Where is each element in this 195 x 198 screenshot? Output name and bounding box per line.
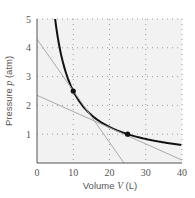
y-tick-label: 1 [26, 129, 31, 140]
y-tick-label: 3 [26, 71, 31, 82]
x-tick-labels: 010203040 [35, 167, 188, 178]
x-axis-label: Volume V (L) [83, 180, 137, 191]
y-tick-label: 4 [26, 42, 31, 53]
x-tick-label: 0 [35, 167, 40, 178]
data-point [71, 88, 76, 93]
x-tick-label: 40 [177, 167, 187, 178]
pv-chart: 010203040 12345 Volume V (L) Pressure p … [0, 0, 195, 198]
y-tick-label: 5 [26, 14, 31, 25]
y-tick-label: 2 [26, 100, 31, 111]
x-tick-label: 20 [105, 167, 115, 178]
y-tick-labels: 12345 [26, 14, 31, 140]
x-tick-label: 30 [141, 167, 151, 178]
x-tick-label: 10 [68, 167, 78, 178]
data-point [125, 132, 130, 137]
y-axis-label: Pressure p (atm) [3, 56, 14, 126]
